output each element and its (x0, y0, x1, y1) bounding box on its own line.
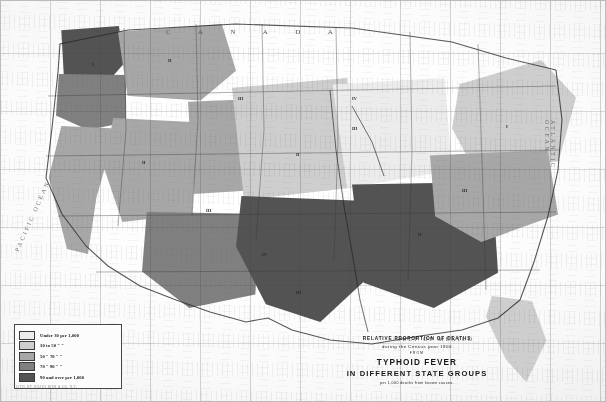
title-rate-note: per 1,000 deaths from known causes. (332, 381, 502, 385)
state-group-numeral: III (296, 290, 301, 295)
state-group-numeral: II (418, 232, 421, 237)
legend-swatch (19, 352, 35, 361)
legend-swatch (19, 362, 35, 371)
state-group-numeral: I (506, 124, 508, 129)
state-group-numeral: I (92, 62, 94, 67)
legend-label: 50 " 70 " " (40, 354, 63, 359)
legend-row: 50 " 70 " " (19, 352, 117, 361)
legend-row: 70 " 90 " " (19, 362, 117, 371)
legend-label: Under 30 per 1,000 (40, 333, 79, 338)
title-census-year: during the Census year 1900 (332, 344, 502, 349)
legend-row: Under 30 per 1,000 (19, 331, 117, 340)
title-from-word: FROM (332, 351, 502, 355)
title-relative-line: RELATIVE PROPORTION OF DEATHS (332, 336, 502, 341)
legend-swatch (19, 373, 35, 382)
state-group-numeral: II (296, 152, 299, 157)
legend-swatch (19, 341, 35, 350)
state-group-numeral: IV (352, 96, 357, 101)
state-group-numeral: III (206, 208, 211, 213)
atlantic-ocean-label: ATLANTIC OCEAN (544, 120, 556, 170)
title-disease-name: TYPHOID FEVER (332, 358, 502, 367)
legend-row: 30 to 50 " " (19, 341, 117, 350)
state-group-numeral: II (168, 58, 171, 63)
canada-label: C A N A D A (166, 28, 346, 36)
state-group-numeral: II (142, 160, 145, 165)
state-group-numeral: III (352, 126, 357, 131)
state-group-numeral: III (462, 188, 467, 193)
title-cartouche: RELATIVE PROPORTION OF DEATHS during the… (332, 336, 502, 385)
legend-swatch (19, 331, 35, 340)
state-group-numeral: IV (262, 252, 267, 257)
state-group-numeral: III (238, 96, 243, 101)
legend-label: 90 and over per 1,000 (40, 375, 84, 380)
legend-label: 70 " 90 " " (40, 364, 63, 369)
legend-label: 30 to 50 " " (40, 343, 64, 348)
printer-imprint: LITH. BY JULIUS BIEN & CO. N.Y. (16, 385, 77, 389)
map-legend: Under 30 per 1,000 30 to 50 " " 50 " 70 … (14, 324, 122, 389)
legend-row: 90 and over per 1,000 (19, 373, 117, 382)
title-subtitle: IN DIFFERENT STATE GROUPS (332, 369, 502, 378)
typhoid-fever-map-figure: C A N A D A ATLANTIC OCEAN PACIFIC OCEAN… (0, 0, 606, 402)
